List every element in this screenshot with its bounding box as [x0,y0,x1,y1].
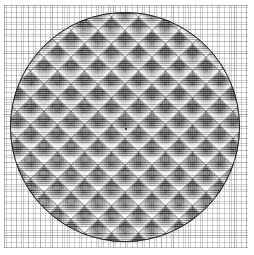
mesh-rows-overlay [10,12,240,242]
center-marker [125,128,127,130]
figure-root: Dense square grid field clipped to a cir… [0,0,254,255]
figure-title: Dense square grid field clipped to a cir… [0,0,1,1]
circular-mesh-region [10,12,240,242]
